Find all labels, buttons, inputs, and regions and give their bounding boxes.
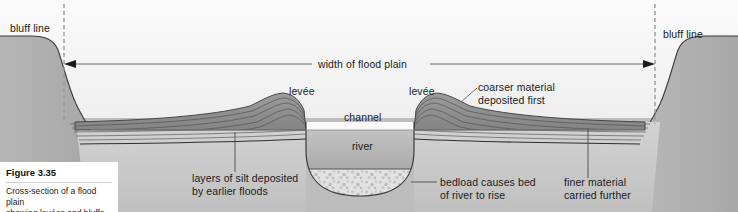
figure-caption-title: Figure 3.35 [6, 167, 112, 179]
label-bluff-line-left: bluff line [10, 22, 50, 35]
label-levee-right: levée [409, 85, 435, 98]
label-river: river [352, 140, 373, 153]
label-finer-material: finer material carried further [564, 176, 631, 201]
label-bedload: bedload causes bed of river to rise [440, 176, 536, 201]
figure-flood-plain-cross-section: bluff line bluff line width of flood pla… [0, 0, 738, 212]
label-levee-left: levée [289, 85, 315, 98]
label-layers-of-silt: layers of silt deposited by earlier floo… [192, 172, 298, 197]
label-width-of-flood-plain: width of flood plain [318, 58, 407, 71]
label-channel: channel [344, 111, 381, 124]
figure-caption-box: Figure 3.35 Cross-section of a flood pla… [0, 162, 118, 212]
caption-divider [6, 182, 112, 183]
label-bluff-line-right: bluff line [663, 28, 703, 41]
label-coarser-material: coarser material deposited first [478, 81, 555, 106]
figure-caption-text: Cross-section of a flood plain showing l… [6, 186, 112, 212]
